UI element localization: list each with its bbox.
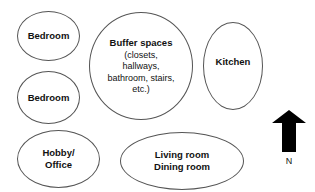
room-label: Buffer spaces [110,37,173,49]
room-label: Office [45,159,72,171]
room-label: Bedroom [28,92,70,104]
room-bedroom-1: Bedroom [17,11,80,61]
room-buffer-spaces: Buffer spaces (closets, hallways, bathro… [89,12,193,120]
room-label: Dining room [154,161,210,173]
room-detail: hallways, [122,61,159,73]
north-label: N [283,155,295,167]
room-hobby-office: Hobby/ Office [17,130,100,188]
room-detail: (closets, [124,50,158,62]
room-kitchen: Kitchen [203,22,263,110]
room-label: Kitchen [216,56,251,68]
north-arrow-icon [272,110,306,152]
room-bedroom-2: Bedroom [17,71,80,124]
room-detail: etc.) [132,84,150,96]
room-label: Living room [155,149,209,161]
room-living-dining: Living room Dining room [120,132,244,190]
room-label: Hobby/ [42,147,74,159]
room-detail: bathroom, stairs, [107,73,174,85]
room-label: Bedroom [28,30,70,42]
